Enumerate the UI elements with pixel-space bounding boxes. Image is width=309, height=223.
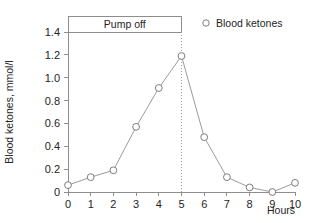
data-point-marker bbox=[201, 134, 208, 141]
x-tick-label: 5 bbox=[178, 198, 184, 210]
data-point-marker bbox=[110, 167, 117, 174]
y-tick-label: 0.4 bbox=[45, 140, 60, 152]
x-tick-label: 4 bbox=[156, 198, 162, 210]
data-point-marker bbox=[155, 85, 162, 92]
legend-marker-open-circle-icon bbox=[203, 20, 209, 26]
y-tick-label: 1.2 bbox=[45, 49, 60, 61]
x-axis-ticks: 012345678910 bbox=[65, 192, 301, 210]
y-tick-label: 0.8 bbox=[45, 95, 60, 107]
data-point-marker bbox=[292, 179, 299, 186]
chart-canvas: 00.20.40.60.81.01.21.4 012345678910 Pump… bbox=[0, 0, 309, 223]
y-tick-label: 0.6 bbox=[45, 117, 60, 129]
x-tick-label: 6 bbox=[201, 198, 207, 210]
pump-off-label: Pump off bbox=[104, 18, 146, 30]
data-point-marker bbox=[224, 174, 231, 181]
y-tick-label: 1.4 bbox=[45, 26, 60, 38]
data-point-marker bbox=[87, 174, 94, 181]
blood-ketones-line bbox=[68, 56, 295, 192]
data-point-marker bbox=[246, 184, 253, 191]
data-point-marker bbox=[269, 189, 276, 196]
y-tick-label: 0 bbox=[54, 186, 60, 198]
data-point-marker bbox=[65, 182, 72, 189]
legend-label-blood-ketones: Blood ketones bbox=[216, 17, 283, 29]
data-point-marker bbox=[133, 123, 140, 130]
x-axis-title: Hours bbox=[267, 204, 295, 216]
blood-ketones-line-chart: 00.20.40.60.81.01.21.4 012345678910 Pump… bbox=[0, 0, 309, 223]
x-tick-label: 1 bbox=[88, 198, 94, 210]
x-tick-label: 0 bbox=[65, 198, 71, 210]
x-tick-label: 2 bbox=[110, 198, 116, 210]
pump-off-reference-lines bbox=[68, 32, 182, 192]
data-point-marker bbox=[178, 53, 185, 60]
x-tick-label: 7 bbox=[224, 198, 230, 210]
y-tick-label: 0.2 bbox=[45, 163, 60, 175]
x-tick-label: 3 bbox=[133, 198, 139, 210]
y-axis-ticks: 00.20.40.60.81.01.21.4 bbox=[45, 26, 68, 198]
y-axis-title: Blood ketones, mmol/l bbox=[3, 60, 15, 163]
x-tick-label: 8 bbox=[247, 198, 253, 210]
y-tick-label: 1.0 bbox=[45, 72, 60, 84]
